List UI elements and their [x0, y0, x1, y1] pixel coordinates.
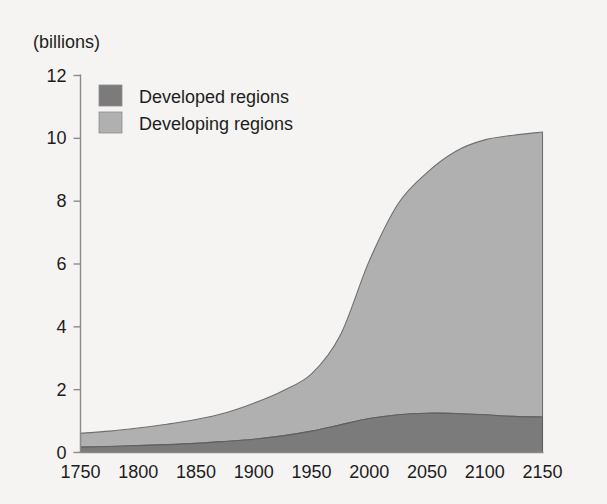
x-axis-tick-label: 2050 — [407, 462, 447, 482]
x-axis-tick-label: 1800 — [118, 462, 158, 482]
y-axis-tick-label: 8 — [56, 191, 66, 211]
legend-label-developing: Developing regions — [139, 114, 293, 134]
population-area-chart: (billions) 024681012 1750180018501900195… — [0, 0, 607, 504]
y-axis-tick-label: 10 — [46, 128, 66, 148]
y-axis-tick-label: 12 — [46, 66, 66, 86]
x-axis-tick-label: 1850 — [176, 462, 216, 482]
legend-swatch-developed — [99, 85, 122, 106]
y-axis-tick-label: 0 — [56, 443, 66, 463]
y-axis-tick-label: 2 — [56, 380, 66, 400]
x-axis-tick-label: 2100 — [465, 462, 505, 482]
x-axis-tick-label: 2150 — [522, 462, 562, 482]
x-axis-tick-label: 1900 — [234, 462, 274, 482]
y-axis-tick-label: 4 — [56, 317, 66, 337]
x-axis-tick-label: 1950 — [291, 462, 331, 482]
legend-label-developed: Developed regions — [139, 87, 289, 107]
x-axis-tick-label: 1750 — [60, 462, 100, 482]
chart-canvas: (billions) 024681012 1750180018501900195… — [0, 0, 607, 504]
legend-swatch-developing — [99, 112, 122, 133]
y-axis-tick-label: 6 — [56, 254, 66, 274]
x-axis-tick-label: 2000 — [349, 462, 389, 482]
y-axis-unit-label: (billions) — [33, 32, 100, 52]
